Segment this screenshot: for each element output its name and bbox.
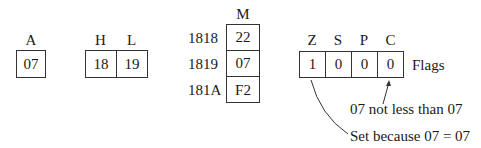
carry-arrowhead-icon [386, 80, 391, 86]
zero-flag-curve [311, 80, 348, 134]
annotation-arrows [0, 0, 481, 148]
